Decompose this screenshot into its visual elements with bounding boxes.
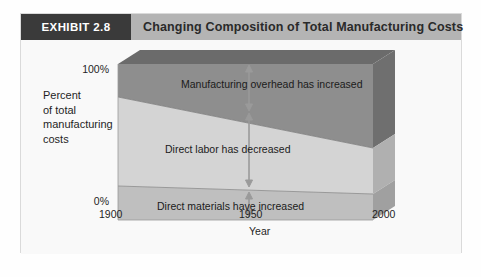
exhibit-tag: EXHIBIT 2.8: [21, 14, 131, 40]
band-label-materials: Direct materials have increased: [157, 200, 304, 212]
chart-top-face: [118, 50, 395, 64]
exhibit-title: Changing Composition of Total Manufactur…: [143, 14, 463, 40]
x-axis-label: Year: [249, 225, 270, 237]
x-tick-1900: 1900: [99, 208, 122, 220]
stacked-area-chart: Manufacturing overhead has increased Dir…: [21, 40, 463, 254]
x-tick-2000: 2000: [372, 208, 395, 220]
screenshot-root: EXHIBIT 2.8 Changing Composition of Tota…: [0, 0, 481, 277]
band-label-overhead: Manufacturing overhead has increased: [181, 78, 363, 90]
exhibit-header: EXHIBIT 2.8 Changing Composition of Tota…: [21, 14, 461, 40]
exhibit-body: Percent of total manufacturing costs 100…: [21, 40, 461, 254]
exhibit-card: EXHIBIT 2.8 Changing Composition of Tota…: [20, 13, 462, 253]
x-tick-1950: 1950: [239, 208, 262, 220]
band-label-labor: Direct labor has decreased: [165, 143, 291, 155]
chart-side-overhead: [373, 50, 395, 148]
